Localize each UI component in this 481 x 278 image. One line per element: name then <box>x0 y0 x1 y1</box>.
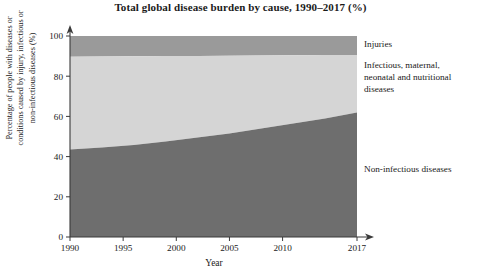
chart-figure: Total global disease burden by cause, 19… <box>0 0 481 278</box>
chart-canvas: 020406080100 199019952000200520102017 In… <box>0 0 481 278</box>
x-tick-label: 2000 <box>167 243 186 253</box>
area-band-injuries <box>70 36 357 57</box>
legend-item-label: Non-infectious diseases <box>364 164 452 174</box>
x-tick-label: 2005 <box>220 243 239 253</box>
y-tick-label: 0 <box>58 232 63 242</box>
y-tick-label: 100 <box>49 31 63 41</box>
y-tick-label: 20 <box>54 192 64 202</box>
y-tick-label: 80 <box>54 72 64 82</box>
legend-item-label: Injuries <box>364 39 392 49</box>
chart-legend: InjuriesInfectious, maternal,neonatal an… <box>364 39 452 174</box>
x-tick-label: 2010 <box>273 243 292 253</box>
x-tick-label: 1995 <box>114 243 133 253</box>
y-axis-ticks: 020406080100 <box>49 31 70 242</box>
x-tick-label: 1990 <box>61 243 80 253</box>
legend-item-label: Infectious, maternal,neonatal and nutrit… <box>364 60 452 94</box>
area-bands <box>70 36 357 237</box>
y-tick-label: 40 <box>54 152 64 162</box>
x-tick-label: 2017 <box>348 243 367 253</box>
x-axis-ticks: 199019952000200520102017 <box>61 237 367 253</box>
y-tick-label: 60 <box>54 112 64 122</box>
